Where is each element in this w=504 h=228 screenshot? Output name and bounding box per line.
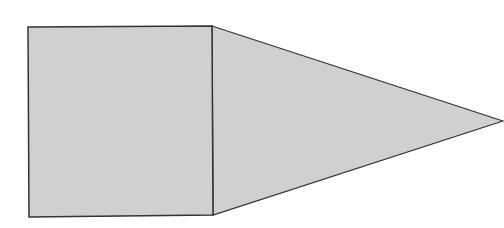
diagram-canvas (0, 0, 504, 228)
triangle-shape (212, 26, 503, 215)
square-shape (28, 26, 213, 217)
shape-diagram (0, 0, 504, 228)
